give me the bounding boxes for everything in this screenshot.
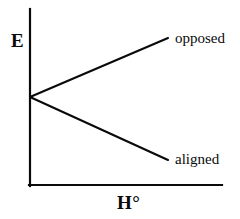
series-line-aligned xyxy=(30,97,168,160)
x-axis-label: H° xyxy=(117,193,140,212)
series-label-aligned: aligned xyxy=(175,152,219,167)
series-line-opposed xyxy=(30,38,168,97)
energy-splitting-figure: E H° opposed aligned xyxy=(0,0,240,219)
series-label-opposed: opposed xyxy=(175,31,225,46)
y-axis-label: E xyxy=(11,31,24,50)
